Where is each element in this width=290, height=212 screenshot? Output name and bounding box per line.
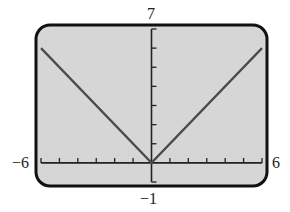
graphing-calculator-screen xyxy=(0,0,290,212)
